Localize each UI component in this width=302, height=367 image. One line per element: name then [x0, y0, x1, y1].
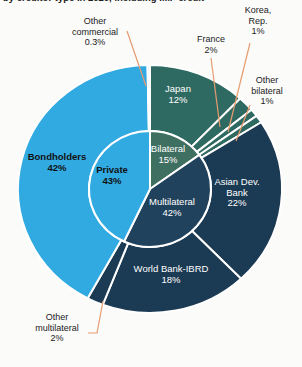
leader-line-other_multilateral [88, 301, 103, 333]
outer-segment-other_commercial [148, 65, 150, 131]
nested-donut-chart [0, 0, 302, 367]
figure-page: by creditor type in 2020, including IMF … [0, 0, 302, 367]
